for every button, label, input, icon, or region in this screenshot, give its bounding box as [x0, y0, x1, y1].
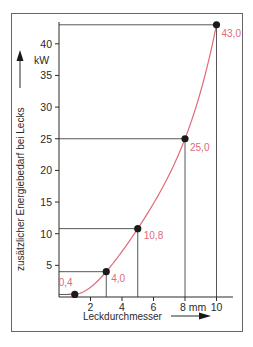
y-tick-label: 5	[46, 259, 52, 271]
chart: 510152025303540 2468 mm10 kW zusätzliche…	[0, 0, 253, 347]
data-point	[103, 268, 110, 275]
data-label: 0,4	[59, 277, 73, 288]
y-tick-label: 40	[40, 38, 52, 50]
x-axis-arrow-icon	[199, 313, 211, 320]
y-tick-label: 20	[40, 164, 52, 176]
data-points: 0,44,010,825,043,0	[59, 21, 242, 298]
data-label: 43,0	[222, 28, 242, 39]
data-label: 4,0	[111, 273, 125, 284]
data-point	[213, 21, 220, 28]
y-tick-label: 15	[40, 196, 52, 208]
y-axis-arrow-icon	[17, 50, 24, 61]
y-tick-label: 30	[40, 101, 52, 113]
y-tick-label: 25	[40, 133, 52, 145]
y-tick-label: 35	[40, 69, 52, 81]
data-point	[181, 135, 188, 142]
data-point	[71, 291, 78, 298]
y-unit-label: kW	[34, 54, 49, 66]
data-label: 10,8	[144, 230, 164, 241]
x-axis-title: Leckdurchmesser	[83, 311, 163, 322]
x-tick-label: 10	[211, 301, 223, 313]
data-curve	[68, 25, 216, 295]
reference-lines	[59, 25, 217, 297]
y-axis-ticks: 510152025303540	[40, 38, 59, 272]
y-axis-title: zusätzlicher Energiebedarf bei Lecks	[15, 108, 26, 271]
data-label: 25,0	[190, 142, 210, 153]
data-point	[134, 225, 141, 232]
y-tick-label: 10	[40, 228, 52, 240]
x-tick-label: 8 mm	[180, 301, 207, 313]
